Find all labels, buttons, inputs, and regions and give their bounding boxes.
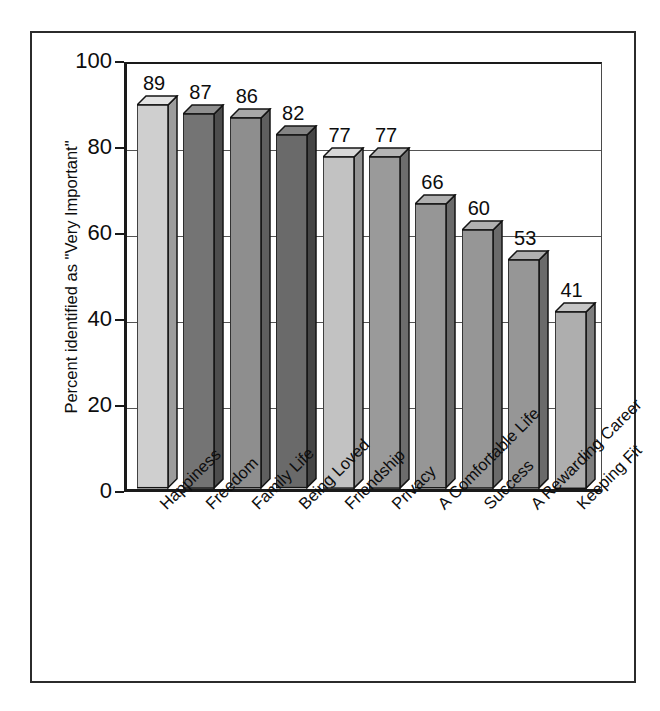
bar-3[interactable] (276, 127, 316, 489)
bar-front-face-5 (369, 157, 400, 488)
y-tick-mark-60 (115, 233, 124, 235)
bar-side-face-1 (214, 105, 223, 488)
bar-8[interactable] (508, 252, 548, 489)
bar-3d-shape-5 (369, 147, 411, 489)
bar-2[interactable] (230, 110, 270, 489)
y-tick-label-40: 40 (50, 306, 112, 332)
y-tick-mark-0 (115, 491, 124, 493)
bar-side-face-2 (261, 109, 270, 488)
bar-chart-figure: Percent identified as "Very Important" 0… (0, 0, 660, 711)
bar-front-face-2 (230, 118, 261, 488)
bar-front-face-8 (508, 260, 539, 488)
bar-side-face-3 (307, 126, 316, 488)
bar-value-label-6: 66 (407, 171, 457, 194)
y-tick-label-0: 0 (50, 478, 112, 504)
bar-3d-shape-1 (183, 104, 225, 489)
y-tick-label-60: 60 (50, 220, 112, 246)
bar-value-label-4: 77 (315, 124, 365, 147)
bar-side-face-6 (446, 195, 455, 488)
bar-side-face-5 (400, 148, 409, 488)
bar-front-face-4 (323, 157, 354, 488)
bar-front-face-3 (276, 135, 307, 488)
bar-3d-shape-2 (230, 108, 272, 489)
y-tick-label-20: 20 (50, 392, 112, 418)
y-tick-mark-20 (115, 405, 124, 407)
y-tick-label-100: 100 (50, 48, 112, 74)
bar-6[interactable] (415, 196, 455, 489)
bar-3d-shape-3 (276, 125, 318, 489)
bar-value-label-7: 60 (454, 197, 504, 220)
bar-3d-shape-8 (508, 250, 550, 489)
y-tick-mark-40 (115, 319, 124, 321)
bar-front-face-0 (137, 105, 168, 488)
y-tick-label-80: 80 (50, 134, 112, 160)
bar-value-label-2: 86 (222, 85, 272, 108)
bar-value-label-9: 41 (547, 279, 597, 302)
bar-front-face-1 (183, 114, 214, 488)
y-tick-mark-100 (115, 61, 124, 63)
bar-value-label-5: 77 (361, 124, 411, 147)
bar-value-label-3: 82 (268, 102, 318, 125)
bar-side-face-0 (168, 96, 177, 488)
bar-value-label-0: 89 (129, 72, 179, 95)
bar-3d-shape-6 (415, 194, 457, 489)
bar-front-face-6 (415, 204, 446, 488)
y-axis-title: Percent identified as "Very Important" (62, 62, 81, 492)
y-tick-mark-80 (115, 147, 124, 149)
bar-5[interactable] (369, 149, 409, 489)
chart-page: Percent identified as "Very Important" 0… (0, 0, 660, 711)
bar-0[interactable] (137, 97, 177, 489)
bar-1[interactable] (183, 106, 223, 489)
bar-3d-shape-0 (137, 95, 179, 489)
bar-value-label-8: 53 (500, 227, 550, 250)
bar-value-label-1: 87 (175, 81, 225, 104)
